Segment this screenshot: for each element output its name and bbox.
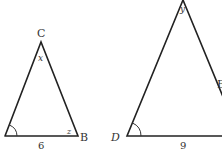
angle-z-label: z xyxy=(66,127,72,136)
vertex-b-label: B xyxy=(80,131,88,144)
triangle-def-edges xyxy=(127,0,222,136)
angle-x-label: x xyxy=(38,53,43,63)
angle-y-label: y xyxy=(179,4,186,14)
side-df-length: 9 xyxy=(180,140,186,151)
vertex-c-label: C xyxy=(37,27,45,40)
angle-a-arc xyxy=(9,125,17,136)
vertex-e-label: E xyxy=(217,78,222,91)
similar-triangles-diagram: C B x z 6 D E y 9 xyxy=(0,0,222,152)
side-ab-length: 6 xyxy=(38,140,44,151)
triangle-def: D E y 9 xyxy=(110,0,222,151)
angle-d-arc xyxy=(133,123,142,136)
triangle-abc: C B x z 6 xyxy=(5,27,88,151)
vertex-d-label: D xyxy=(110,131,120,144)
